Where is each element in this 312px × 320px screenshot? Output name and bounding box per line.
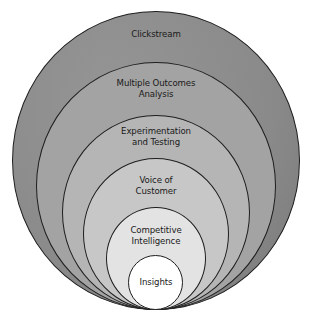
- label-multiple-outcomes-analysis: Multiple Outcomes Analysis: [0, 78, 312, 100]
- label-line: Competitive: [0, 225, 312, 236]
- label-line: Intelligence: [0, 236, 312, 247]
- label-line: Experimentation: [0, 126, 312, 137]
- nested-circles-diagram: Clickstream Multiple Outcomes Analysis E…: [0, 0, 312, 320]
- label-insights: Insights: [0, 277, 312, 288]
- label-competitive-intelligence: Competitive Intelligence: [0, 225, 312, 247]
- label-line: Multiple Outcomes: [0, 78, 312, 89]
- label-clickstream: Clickstream: [0, 29, 312, 40]
- label-voice-of-customer: Voice of Customer: [0, 175, 312, 197]
- label-experimentation-and-testing: Experimentation and Testing: [0, 126, 312, 148]
- label-line: Analysis: [0, 89, 312, 100]
- label-line: and Testing: [0, 137, 312, 148]
- label-line: Voice of: [0, 175, 312, 186]
- label-line: Insights: [0, 277, 312, 288]
- label-line: Customer: [0, 186, 312, 197]
- label-line: Clickstream: [0, 29, 312, 40]
